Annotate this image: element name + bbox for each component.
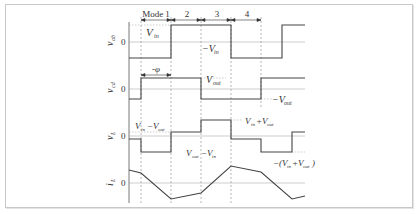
- svg-text:0: 0: [121, 131, 126, 141]
- axis-label-vL: v L 0: [104, 131, 126, 141]
- annotation-vin-minus-vout: V in −V out: [135, 121, 165, 132]
- svg-text:V: V: [146, 26, 154, 38]
- mode-3-label: 3: [215, 9, 220, 19]
- axis-label-vcd: v cd 0: [104, 81, 126, 94]
- svg-text:in: in: [214, 49, 219, 55]
- svg-text:in: in: [212, 154, 216, 159]
- svg-text:cd: cd: [110, 81, 116, 88]
- mode-2-label: 2: [185, 9, 190, 19]
- svg-text:0: 0: [121, 178, 126, 188]
- annotation-vout: V out: [206, 74, 221, 86]
- svg-text:in: in: [154, 33, 159, 39]
- phase-label: -φ: [152, 64, 160, 74]
- svg-text:out: out: [303, 164, 310, 169]
- mode-4-label: 4: [245, 9, 250, 19]
- svg-text:out: out: [158, 127, 165, 132]
- annotation-vout-minus-vin: V out −V in: [186, 148, 216, 159]
- svg-text:i: i: [104, 183, 115, 186]
- svg-text:L: L: [110, 178, 116, 183]
- annotation-neg-vin: −V in: [202, 43, 219, 55]
- trace-iL: [129, 166, 305, 199]
- svg-text:0: 0: [121, 37, 126, 47]
- axis-label-iL: i L 0: [104, 178, 126, 188]
- svg-text:out: out: [284, 100, 292, 106]
- svg-text:0: 0: [121, 84, 126, 94]
- svg-text:out: out: [267, 122, 274, 127]
- svg-text:in: in: [141, 127, 145, 132]
- svg-text:out: out: [192, 154, 199, 159]
- svg-text:in: in: [287, 164, 291, 169]
- waveform-diagram: Mode 1 2 3 4 v ab 0 v cd 0 v L 0 i L 0: [0, 0, 419, 214]
- mode-boundaries: [141, 17, 261, 203]
- annotation-neg-vout: −V out: [272, 94, 292, 106]
- svg-text:in: in: [251, 122, 255, 127]
- level-guides: [129, 25, 305, 152]
- svg-text:): ): [311, 158, 315, 168]
- annotation-neg-sum: −(V in +V out ): [273, 158, 315, 169]
- svg-text:ab: ab: [110, 35, 116, 41]
- svg-text:L: L: [110, 131, 116, 136]
- mode-1-label: Mode 1: [142, 9, 170, 19]
- annotation-vin-plus-vout: V in +V out: [245, 116, 274, 127]
- annotation-vin: V in: [146, 26, 159, 39]
- axis-label-vab: v ab 0: [104, 35, 126, 47]
- svg-text:out: out: [213, 80, 221, 86]
